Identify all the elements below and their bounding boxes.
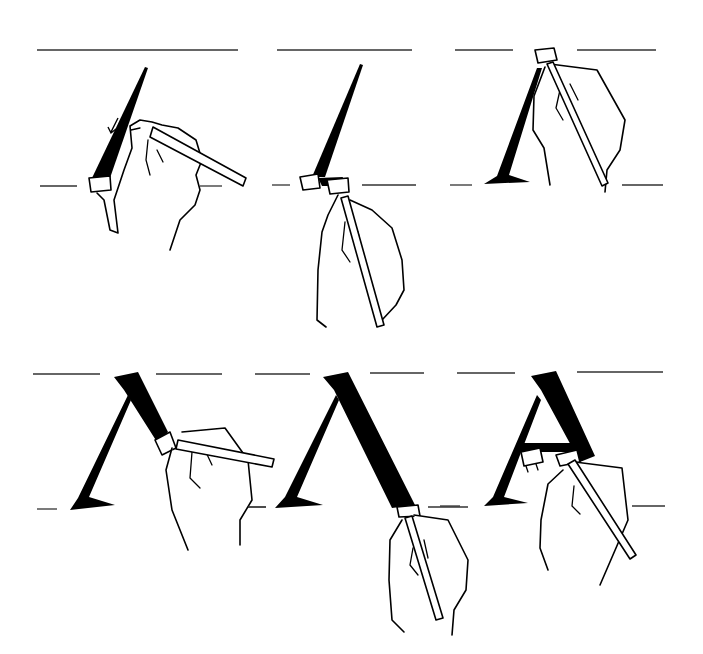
ink-stroke: [312, 64, 363, 177]
letter-a-left-stroke: [275, 395, 339, 508]
pen-nib: [89, 176, 111, 192]
pen-nib: [535, 48, 557, 63]
calligraphy-illustration: [0, 0, 703, 654]
pen-nib: [327, 178, 349, 194]
letter-a-right-stroke: [323, 372, 415, 508]
panel-2: [272, 50, 416, 327]
pen-nib-start: [521, 448, 543, 466]
letter-a-left-stroke: [70, 395, 131, 510]
panel-4: [33, 372, 274, 550]
panel-5: [248, 372, 468, 635]
panel-6: [440, 371, 665, 585]
panel-1: [37, 50, 246, 250]
panel-3: [450, 48, 663, 192]
pen-nib-lifted: [300, 174, 320, 190]
letter-a-right-stroke: [114, 372, 168, 442]
